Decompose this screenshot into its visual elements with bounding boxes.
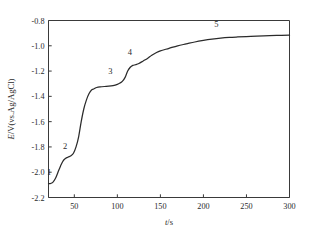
y-tick-label: -1.8 — [32, 143, 45, 152]
x-tick-label: 250 — [240, 202, 252, 211]
y-tick-label: -1.2 — [32, 67, 45, 76]
svg-text:E/V(vs.Ag/AgCl): E/V(vs.Ag/AgCl) — [6, 78, 16, 140]
y-tick-label: -1.6 — [32, 118, 45, 127]
annotation-label-1: 1 — [47, 167, 51, 177]
y-tick-label: -0.8 — [32, 17, 45, 26]
x-axis-title: t/s — [165, 217, 174, 227]
x-tick-label: 150 — [154, 202, 166, 211]
svg-text:t/s: t/s — [165, 217, 174, 227]
chart-canvas: -0.8-1.0-1.2-1.4-1.6-1.8-2.0-2.2 5010015… — [0, 0, 309, 233]
annotation-label-5: 5 — [214, 19, 218, 29]
x-tick-label: 100 — [111, 202, 123, 211]
y-tick-label: -2.2 — [32, 194, 45, 203]
annotation-label-2: 2 — [63, 141, 67, 151]
y-axis-tick-labels: -0.8-1.0-1.2-1.4-1.6-1.8-2.0-2.2 — [32, 17, 45, 203]
x-tick-label: 200 — [197, 202, 209, 211]
y-tick-label: -2.0 — [32, 168, 45, 177]
annotation-label-4: 4 — [128, 47, 133, 57]
annotation-label-3: 3 — [108, 66, 112, 76]
x-axis-tick-labels: 50100150200250300 — [70, 202, 295, 211]
y-tick-label: -1.0 — [32, 42, 45, 51]
y-tick-label: -1.4 — [32, 92, 45, 101]
x-tick-label: 300 — [283, 202, 295, 211]
chart-figure: -0.8-1.0-1.2-1.4-1.6-1.8-2.0-2.2 5010015… — [0, 0, 309, 233]
y-axis-title: E/V(vs.Ag/AgCl) — [6, 78, 16, 140]
plot-frame — [49, 21, 290, 198]
data-curve-potential-time — [49, 35, 290, 184]
x-tick-label: 50 — [70, 202, 78, 211]
